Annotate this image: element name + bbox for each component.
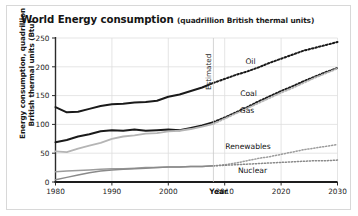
series-label-gas: Gas bbox=[240, 106, 255, 115]
y-tick-label: 50 bbox=[40, 149, 50, 158]
estimated-annotation-label: Estimated bbox=[204, 54, 213, 90]
series-label-coal: Coal bbox=[240, 89, 257, 98]
y-tick-label: 0 bbox=[45, 178, 50, 187]
y-tick-labels: 050100150200250 bbox=[36, 34, 50, 187]
series-line-solid-oil bbox=[56, 83, 214, 112]
x-tick-labels: 198019902000201020202030 bbox=[46, 187, 347, 196]
y-tick-label: 250 bbox=[36, 34, 50, 43]
series-label-renewables: Renewables bbox=[225, 142, 271, 151]
axis-lines bbox=[55, 37, 338, 182]
y-tick-label: 200 bbox=[36, 63, 50, 72]
chart-plot: 050100150200250 198019902000201020202030… bbox=[0, 0, 358, 216]
gridlines bbox=[56, 38, 338, 182]
estimated-divider: Estimated bbox=[204, 38, 214, 182]
x-tick-label: 2030 bbox=[328, 187, 347, 196]
series-label-oil: Oil bbox=[245, 57, 255, 66]
y-tick-label: 100 bbox=[36, 120, 50, 129]
y-tick-label: 150 bbox=[36, 91, 50, 100]
series-line-solid-coal bbox=[56, 122, 214, 142]
x-tick-label: 1990 bbox=[103, 187, 122, 196]
series-lines bbox=[56, 42, 338, 180]
x-tick-label: 2000 bbox=[159, 187, 178, 196]
series-label-nuclear: Nuclear bbox=[238, 166, 268, 175]
x-tick-label: 2020 bbox=[272, 187, 291, 196]
x-axis-name: Year bbox=[208, 187, 228, 196]
x-tick-label: 1980 bbox=[46, 187, 65, 196]
x-axis-name-label: Year bbox=[208, 187, 228, 196]
chart-figure: World Energy consumption (quadrillion Br… bbox=[0, 0, 358, 216]
